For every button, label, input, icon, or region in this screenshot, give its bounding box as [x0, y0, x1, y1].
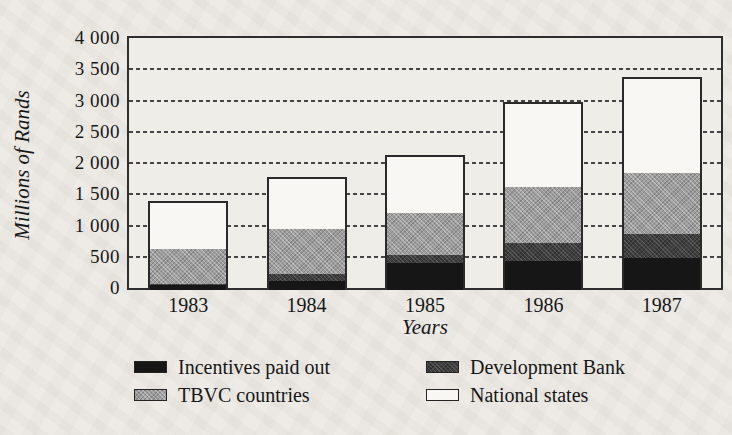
legend-item-tbvc: TBVC countries [134, 383, 426, 407]
bar-segment-1987-tbvc [624, 173, 700, 234]
bar-segment-1986-tbvc [505, 187, 581, 243]
bar-1983 [148, 201, 228, 288]
bar-segment-1984-national [269, 179, 345, 229]
legend-swatch-tbvc [134, 389, 167, 401]
bar-segment-1987-devbank [624, 234, 700, 258]
legend-label-devbank: Development Bank [470, 356, 625, 379]
x-tick-label-1987: 1987 [602, 294, 722, 316]
legend-item-incentives: Incentives paid out [134, 355, 426, 379]
legend-swatch-incentives [134, 361, 167, 373]
bar-1984 [267, 177, 347, 288]
legend-label-tbvc: TBVC countries [178, 384, 310, 407]
y-tick-label-500: 500 [0, 246, 120, 268]
legend-swatch-national [426, 389, 459, 401]
bar-segment-1987-incentives [624, 258, 700, 291]
bar-segment-1985-incentives [387, 263, 463, 290]
x-tick-label-1986: 1986 [483, 294, 603, 316]
bar-1985 [385, 155, 465, 288]
y-tick-label-0: 0 [0, 277, 120, 299]
bar-segment-1986-devbank [505, 243, 581, 261]
stacked-bar-chart-figure: Millions of Rands 05001 0001 5002 0002 5… [0, 0, 732, 435]
gridline-3500 [129, 68, 721, 70]
bar-segment-1986-incentives [505, 261, 581, 290]
bar-1987 [622, 77, 702, 288]
bar-segment-1984-incentives [269, 281, 345, 290]
legend: Incentives paid outDevelopment BankTBVC … [134, 355, 714, 407]
bar-segment-1983-incentives [150, 285, 226, 290]
bar-segment-1984-tbvc [269, 229, 345, 274]
y-tick-label-3500: 3 500 [0, 58, 120, 80]
y-tick-label-4000: 4 000 [0, 27, 120, 49]
bar-segment-1985-tbvc [387, 213, 463, 255]
x-tick-label-1985: 1985 [365, 294, 485, 316]
x-tick-label-1983: 1983 [128, 294, 248, 316]
plot-area [127, 36, 723, 290]
y-tick-label-2500: 2 500 [0, 121, 120, 143]
y-tick-label-1500: 1 500 [0, 183, 120, 205]
bar-segment-1985-devbank [387, 255, 463, 263]
bar-segment-1983-national [150, 203, 226, 249]
legend-item-national: National states [426, 383, 714, 407]
bar-segment-1987-national [624, 79, 700, 173]
legend-item-devbank: Development Bank [426, 355, 714, 379]
bar-segment-1983-tbvc [150, 249, 226, 283]
x-tick-label-1984: 1984 [247, 294, 367, 316]
legend-label-national: National states [470, 384, 588, 407]
bar-segment-1985-national [387, 157, 463, 213]
x-axis-title: Years [127, 315, 723, 339]
y-tick-label-3000: 3 000 [0, 90, 120, 112]
bar-segment-1986-national [505, 104, 581, 187]
y-tick-label-1000: 1 000 [0, 215, 120, 237]
legend-swatch-devbank [426, 361, 459, 373]
y-tick-label-2000: 2 000 [0, 152, 120, 174]
bar-1986 [503, 102, 583, 288]
bar-segment-1984-devbank [269, 274, 345, 281]
legend-label-incentives: Incentives paid out [178, 356, 330, 379]
